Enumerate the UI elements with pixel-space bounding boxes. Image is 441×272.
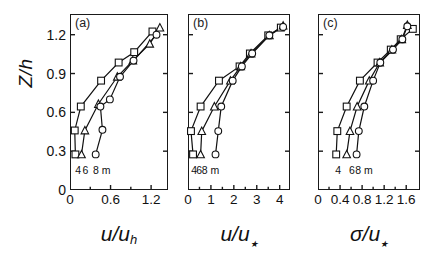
data-point-marker xyxy=(370,77,377,84)
data-point-marker xyxy=(98,77,105,84)
data-point-marker xyxy=(343,103,350,110)
data-point-marker xyxy=(216,77,223,84)
data-point-marker xyxy=(333,151,340,158)
legend-label: 4 xyxy=(335,164,341,176)
data-point-marker xyxy=(404,23,411,30)
data-point-marker xyxy=(197,103,204,110)
data-point-marker xyxy=(361,103,368,110)
legend-label: 6 xyxy=(83,164,89,176)
x-tick-label: 0.6 xyxy=(101,192,120,207)
y-axis-tick-labels: 00.30.60.91.2 xyxy=(22,0,66,200)
y-tick-label: 0.9 xyxy=(47,66,66,82)
x-label-denominator: u xyxy=(118,222,130,245)
data-point-marker xyxy=(334,128,341,135)
x-label-denominator: u xyxy=(238,222,250,245)
x-label-denominator: u xyxy=(368,222,380,245)
data-point-marker xyxy=(353,103,361,110)
y-tick-label: 0.6 xyxy=(47,104,66,120)
x-label-numerator: u xyxy=(220,222,232,245)
panel-c-x-axis-label: σ/u★ xyxy=(318,222,420,256)
panel-a-x-axis-label: u/uh xyxy=(70,222,168,256)
data-point-marker xyxy=(346,127,354,134)
data-point-marker xyxy=(130,57,137,64)
data-point-marker xyxy=(355,128,362,135)
legend-label: 8 m xyxy=(202,164,220,176)
data-point-marker xyxy=(215,128,222,135)
series-line-circle xyxy=(216,27,284,154)
data-point-marker xyxy=(229,77,236,84)
x-tick-label: 0.8 xyxy=(353,192,372,207)
x-tick-label: 1.2 xyxy=(375,192,394,207)
x-tick-label: 3 xyxy=(253,192,261,207)
panel-b-x-axis-label: u/u★ xyxy=(188,222,290,256)
data-point-marker xyxy=(390,46,397,53)
data-point-marker xyxy=(280,24,287,31)
data-point-marker xyxy=(238,63,245,70)
data-point-marker xyxy=(146,40,154,47)
data-point-marker xyxy=(198,127,206,134)
data-point-marker xyxy=(190,151,197,158)
y-tick-label: 0 xyxy=(58,182,66,198)
data-point-marker xyxy=(249,50,256,57)
legend-label: 8 m xyxy=(93,164,111,176)
data-point-marker xyxy=(211,103,219,110)
data-point-marker xyxy=(115,59,122,66)
data-point-marker xyxy=(156,24,164,31)
data-point-marker xyxy=(71,127,78,134)
x-tick-label: 1.2 xyxy=(142,192,161,207)
data-point-marker xyxy=(77,103,84,110)
data-point-marker xyxy=(81,126,89,133)
series-line-square xyxy=(191,28,281,155)
data-point-marker xyxy=(357,77,364,84)
legend-label: 4 xyxy=(75,164,81,176)
x-tick-label: 0 xyxy=(184,192,192,207)
y-tick-label: 0.3 xyxy=(47,143,66,159)
data-point-marker xyxy=(353,151,360,158)
series-line-square xyxy=(75,31,153,154)
x-label-subscript: ★ xyxy=(380,239,388,249)
figure-canvas: Z/h 00.30.60.91.2 (a) (b) (c) 00.61.2 01… xyxy=(0,0,441,272)
data-point-marker xyxy=(99,126,106,133)
x-label-subscript: ★ xyxy=(250,239,258,249)
legend-label: 6 xyxy=(349,164,355,176)
x-tick-label: 0.4 xyxy=(331,192,350,207)
x-tick-label: 1.6 xyxy=(397,192,416,207)
x-tick-label: 0 xyxy=(314,192,322,207)
x-tick-label: 1 xyxy=(207,192,215,207)
x-label-numerator: u xyxy=(101,222,113,245)
panel-a-x-tick-labels: 00.61.2 xyxy=(70,192,168,210)
data-point-marker xyxy=(117,73,124,80)
x-label-numerator: σ xyxy=(350,222,363,245)
data-point-marker xyxy=(377,59,384,66)
data-point-marker xyxy=(153,31,160,38)
data-point-marker xyxy=(343,150,351,157)
x-tick-label: 2 xyxy=(230,192,238,207)
panel-b-x-tick-labels: 01234 xyxy=(188,192,290,210)
data-point-marker xyxy=(106,96,113,103)
series-line-square xyxy=(336,29,413,155)
data-point-marker xyxy=(266,32,273,39)
data-point-marker xyxy=(188,128,195,135)
panel-c-x-tick-labels: 00.40.81.21.6 xyxy=(318,192,420,210)
x-label-subscript: h xyxy=(130,232,137,247)
x-tick-label: 0 xyxy=(66,192,74,207)
data-point-marker xyxy=(218,103,225,110)
data-point-marker xyxy=(399,36,406,43)
x-tick-label: 4 xyxy=(276,192,284,207)
data-point-marker xyxy=(131,49,138,56)
legend-label: 8 m xyxy=(355,164,373,176)
data-point-marker xyxy=(92,151,99,158)
data-point-marker xyxy=(197,150,205,157)
data-point-marker xyxy=(97,103,104,110)
y-tick-label: 1.2 xyxy=(47,27,66,43)
data-point-marker xyxy=(212,151,219,158)
